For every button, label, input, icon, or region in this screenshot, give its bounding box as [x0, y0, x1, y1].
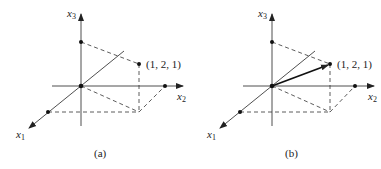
x2-label: x2	[367, 90, 377, 104]
panel-b: (1, 2, 1) x3 x2 x1 (b)	[206, 7, 377, 160]
x1-label: x1	[206, 128, 216, 142]
x3-dot	[270, 40, 274, 44]
x1-dot	[46, 110, 50, 114]
caption-b: (b)	[285, 147, 298, 160]
x2-dot	[163, 84, 167, 88]
point-label: (1, 2, 1)	[337, 58, 372, 71]
dash-corner-to-x2	[330, 86, 355, 112]
point-label: (1, 2, 1)	[146, 58, 181, 71]
origin-dot	[79, 84, 84, 89]
dash-origin-to-corner	[81, 86, 139, 112]
figure: (1, 2, 1) x3 x2 x1 (a) (1, 2, 1) x3 x2 x…	[0, 0, 381, 169]
point-dot	[328, 62, 332, 66]
x1-dot	[238, 110, 242, 114]
x1-axis	[29, 51, 124, 128]
dash-corner-to-x2	[139, 86, 165, 112]
caption-a: (a)	[94, 147, 107, 160]
x1-axis	[220, 51, 315, 128]
x1-label: x1	[15, 128, 25, 142]
point-dot	[137, 62, 141, 66]
dash-origin-to-corner	[272, 86, 330, 112]
x3-label: x3	[66, 7, 76, 21]
dash-x3-to-point	[272, 42, 330, 64]
origin-dot	[270, 84, 275, 89]
x2-dot	[353, 84, 357, 88]
panel-a: (1, 2, 1) x3 x2 x1 (a)	[15, 7, 186, 160]
x3-label: x3	[257, 7, 267, 21]
position-vector-arrow	[272, 65, 328, 86]
x2-label: x2	[176, 90, 186, 104]
x3-dot	[79, 40, 83, 44]
dash-x3-to-point	[81, 42, 139, 64]
